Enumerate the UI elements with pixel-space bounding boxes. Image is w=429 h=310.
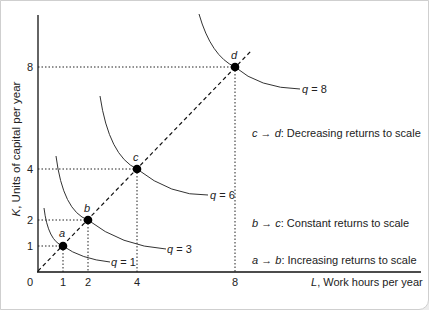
chart-frame: a b c d q = 1 q = 3 q = 6 q = 8 0 1 2 4 … (0, 0, 429, 310)
label-a: a (59, 227, 65, 239)
label-c: c (133, 151, 139, 163)
isoquant-label-q1: q = 1 (111, 256, 136, 268)
tick-y-4: 4 (27, 163, 33, 175)
isoquant-label-q6: q = 6 (210, 189, 235, 201)
tick-x-0: 0 (27, 276, 33, 288)
tick-x-4: 4 (134, 276, 140, 288)
y-axis-title: K, Units of capital per year (10, 81, 22, 216)
annotation-increasing: a → b: Increasing returns to scale (252, 254, 417, 266)
tick-x-1: 1 (60, 276, 66, 288)
tick-x-8: 8 (232, 276, 238, 288)
annotation-decreasing: c → d: Decreasing returns to scale (252, 127, 421, 139)
label-d: d (231, 49, 238, 61)
isoquant-label-q8: q = 8 (302, 83, 327, 95)
annotation-constant: b → c: Constant returns to scale (252, 217, 409, 229)
isoquant-q8 (199, 14, 300, 89)
point-c (133, 165, 142, 174)
x-axis-title: L, Work hours per year (311, 276, 423, 288)
isoquant-q6 (100, 96, 208, 195)
expansion-path (38, 51, 251, 271)
point-b (84, 216, 93, 225)
tick-y-2: 2 (27, 214, 33, 226)
tick-y-8: 8 (27, 61, 33, 73)
point-d (231, 63, 240, 72)
label-b: b (84, 202, 90, 214)
isoquant-label-q3: q = 3 (167, 243, 192, 255)
point-a (59, 242, 68, 251)
isoquant-chart: a b c d q = 1 q = 3 q = 6 q = 8 0 1 2 4 … (1, 1, 429, 310)
tick-x-2: 2 (85, 276, 91, 288)
tick-y-1: 1 (27, 240, 33, 252)
